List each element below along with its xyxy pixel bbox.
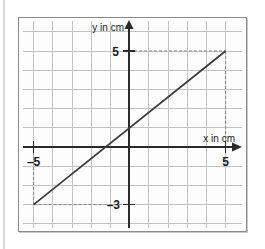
tick-label-y-plus5: 5	[112, 45, 119, 59]
figure-frame: y in cm x in cm 5 –3 –5 5	[18, 17, 247, 232]
tick-label-y-minus3: –3	[107, 198, 121, 212]
y-axis-arrowhead	[125, 20, 134, 29]
page-edge-artifact	[3, 0, 5, 249]
tick-label-x-minus5: –5	[27, 155, 41, 169]
y-axis-label: y in cm	[92, 22, 124, 33]
coordinate-plot: y in cm x in cm 5 –3 –5 5	[19, 18, 246, 231]
x-axis-label: x in cm	[203, 133, 235, 144]
tick-label-x-plus5: 5	[222, 155, 229, 169]
grid-horizontal	[23, 32, 242, 224]
